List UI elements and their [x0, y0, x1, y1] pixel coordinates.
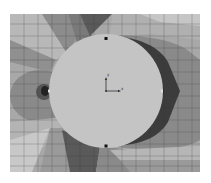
- node-marker-top: [105, 37, 108, 40]
- node-marker-right: [161, 90, 163, 93]
- contour-region: [41, 86, 49, 96]
- node-marker-left: [48, 90, 50, 93]
- node-marker-bottom: [105, 145, 108, 148]
- contour-plot: y x: [0, 0, 211, 183]
